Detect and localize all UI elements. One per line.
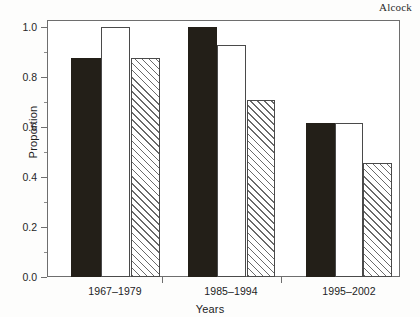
x-tick-group-separator-2 bbox=[281, 277, 282, 283]
x-label-group-1: 1967–1979 bbox=[60, 285, 170, 297]
bar-1967-1979-hatched[interactable] bbox=[131, 58, 160, 277]
running-head: Alcock bbox=[379, 1, 412, 13]
x-tick-group-separator-1 bbox=[162, 277, 163, 283]
y-tick-label-1.0: 1.0 bbox=[0, 22, 37, 33]
chart-page: Alcock Proportion 1.0 0.8 0.6 0.4 0.2 0.… bbox=[0, 0, 420, 317]
x-label-group-3: 1995–2002 bbox=[294, 285, 404, 297]
y-tick-label-0.8: 0.8 bbox=[0, 72, 37, 83]
bar-1967-1979-solid[interactable] bbox=[71, 58, 101, 277]
x-axis-title: Years bbox=[0, 303, 420, 315]
bar-1985-1994-solid[interactable] bbox=[188, 27, 217, 277]
plot-area bbox=[47, 27, 400, 277]
bar-1985-1994-open[interactable] bbox=[217, 45, 246, 278]
x-label-group-2: 1985–1994 bbox=[176, 285, 286, 297]
y-tick-label-0.4: 0.4 bbox=[0, 172, 37, 183]
bar-1995-2002-solid[interactable] bbox=[306, 123, 335, 277]
bar-1967-1979-open[interactable] bbox=[101, 27, 130, 277]
bar-1995-2002-hatched[interactable] bbox=[363, 163, 392, 277]
y-tick-label-0.0: 0.0 bbox=[0, 272, 37, 283]
y-tick-label-0.6: 0.6 bbox=[0, 122, 37, 133]
bar-1985-1994-hatched[interactable] bbox=[247, 100, 275, 278]
y-tick-0.0 bbox=[41, 277, 47, 278]
bar-1995-2002-open[interactable] bbox=[335, 123, 363, 277]
y-tick-label-0.2: 0.2 bbox=[0, 222, 37, 233]
